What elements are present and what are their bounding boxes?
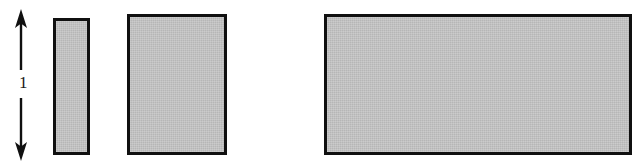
wide-block <box>324 14 632 155</box>
narrow-block <box>53 18 90 155</box>
square-block <box>127 14 227 155</box>
figure-canvas: 1 <box>0 0 643 167</box>
dimension-label: 1 <box>19 72 33 94</box>
